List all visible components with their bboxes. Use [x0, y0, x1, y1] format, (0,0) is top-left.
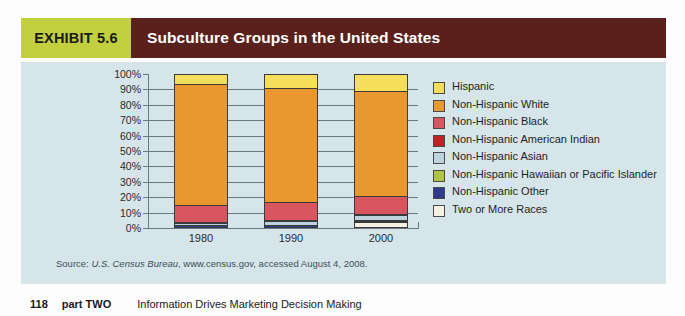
bar-segment: [265, 89, 317, 203]
source-prefix: Source:: [56, 258, 91, 269]
source-publisher: U.S. Census Bureau: [91, 258, 178, 269]
bar-segment: [265, 203, 317, 221]
legend-label: Non-Hispanic Asian: [452, 150, 548, 163]
legend-item: Non-Hispanic Asian: [433, 150, 658, 164]
x-axis-tick-label: 1980: [161, 232, 241, 244]
x-axis-tick-label: 1990: [251, 232, 331, 244]
footer-part-label: part TWO: [62, 298, 112, 310]
bar-segment: [355, 92, 407, 196]
plot-area: [148, 74, 418, 228]
y-axis-tick-label: 100%: [21, 68, 141, 80]
bar-1980: [174, 74, 228, 228]
legend-item: Non-Hispanic Hawaiian or Pacific Islande…: [433, 168, 658, 182]
bar-segment: [175, 75, 227, 85]
legend-label: Non-Hispanic Other: [452, 185, 549, 198]
bar-segment: [265, 226, 317, 227]
y-axis-tick: [143, 89, 148, 90]
legend-swatch-icon: [433, 152, 445, 164]
bar-segment: [355, 197, 407, 215]
legend-item: Non-Hispanic White: [433, 98, 658, 112]
source-rest: , www.census.gov, accessed August 4, 200…: [178, 258, 367, 269]
footer-page-number: 118: [30, 298, 48, 310]
legend-item: Non-Hispanic Other: [433, 185, 658, 199]
y-axis-tick: [143, 197, 148, 198]
bar-segment: [175, 85, 227, 206]
y-axis-tick-label: 20%: [21, 191, 141, 203]
legend-item: Non-Hispanic Black: [433, 115, 658, 129]
stacked-bar-chart: 0%10%20%30%40%50%60%70%80%90%100% 198019…: [21, 62, 666, 284]
y-axis-tick: [143, 228, 148, 229]
y-axis-tick: [143, 166, 148, 167]
bar-segment: [265, 75, 317, 89]
legend-swatch-icon: [433, 82, 445, 94]
y-axis-tick: [143, 136, 148, 137]
bar-segment: [175, 206, 227, 223]
chart-panel: 0%10%20%30%40%50%60%70%80%90%100% 198019…: [21, 62, 666, 284]
legend-item: Hispanic: [433, 80, 658, 94]
y-axis-tick-label: 60%: [21, 130, 141, 142]
exhibit-page: EXHIBIT 5.6 Subculture Groups in the Uni…: [0, 0, 685, 316]
y-axis-tick-label: 40%: [21, 160, 141, 172]
legend-label: Non-Hispanic Hawaiian or Pacific Islande…: [452, 168, 657, 181]
y-axis-tick-label: 80%: [21, 99, 141, 111]
legend-label: Non-Hispanic White: [452, 98, 549, 111]
exhibit-title: Subculture Groups in the United States: [131, 18, 666, 58]
legend-swatch-icon: [433, 135, 445, 147]
y-axis-tick-label: 90%: [21, 83, 141, 95]
source-note: Source: U.S. Census Bureau, www.census.g…: [56, 258, 367, 269]
y-axis-tick: [143, 213, 148, 214]
legend-swatch-icon: [433, 100, 445, 112]
legend-swatch-icon: [433, 170, 445, 182]
footer-part-title: Information Drives Marketing Decision Ma…: [137, 298, 361, 310]
y-axis-tick: [143, 182, 148, 183]
chart-legend: HispanicNon-Hispanic WhiteNon-Hispanic B…: [433, 80, 658, 220]
legend-label: Two or More Races: [452, 203, 547, 216]
gridline: [148, 228, 418, 229]
page-footer: 118 part TWO Information Drives Marketin…: [0, 292, 685, 316]
legend-swatch-icon: [433, 205, 445, 217]
legend-label: Non-Hispanic Black: [452, 115, 548, 128]
bar-1990: [264, 74, 318, 228]
bar-segment: [175, 226, 227, 227]
legend-label: Hispanic: [452, 80, 494, 93]
legend-swatch-icon: [433, 117, 445, 129]
exhibit-header: EXHIBIT 5.6 Subculture Groups in the Uni…: [21, 18, 666, 58]
x-axis-tick-label: 2000: [341, 232, 421, 244]
y-axis-tick-label: 70%: [21, 114, 141, 126]
bar-segment: [355, 75, 407, 92]
y-axis-tick: [143, 74, 148, 75]
bar-2000: [354, 74, 408, 228]
y-axis-tick-label: 0%: [21, 222, 141, 234]
legend-item: Non-Hispanic American Indian: [433, 133, 658, 147]
y-axis-tick-label: 30%: [21, 176, 141, 188]
y-axis-tick-label: 10%: [21, 207, 141, 219]
y-axis-labels: 0%10%20%30%40%50%60%70%80%90%100%: [21, 74, 141, 228]
bar-segment: [355, 223, 407, 227]
legend-swatch-icon: [433, 187, 445, 199]
x-axis-labels: 198019902000: [148, 232, 418, 250]
legend-item: Two or More Races: [433, 203, 658, 217]
y-axis-tick-label: 50%: [21, 145, 141, 157]
exhibit-number-tag: EXHIBIT 5.6: [21, 18, 131, 58]
y-axis-tick: [143, 151, 148, 152]
y-axis-tick: [143, 105, 148, 106]
y-axis-tick: [143, 120, 148, 121]
legend-label: Non-Hispanic American Indian: [452, 133, 600, 146]
x-axis-end-tick: [418, 222, 419, 229]
